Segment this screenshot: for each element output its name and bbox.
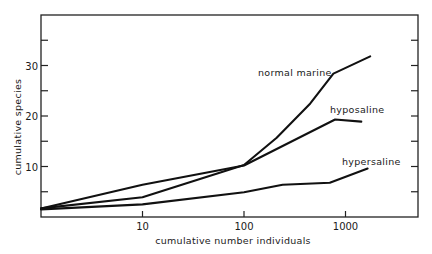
label-hyposaline: hyposaline bbox=[330, 104, 384, 115]
series-line-normal-marine bbox=[41, 56, 370, 208]
x-tick-label: 10 bbox=[136, 221, 149, 232]
axis-tick-labels: 101001000102030 bbox=[25, 61, 358, 233]
y-tick-label: 10 bbox=[25, 162, 38, 173]
x-tick-label: 1000 bbox=[333, 221, 358, 232]
data-series bbox=[41, 56, 370, 209]
axis-ticks bbox=[41, 40, 418, 217]
plot-frame bbox=[41, 15, 418, 217]
series-line-hyposaline bbox=[41, 120, 361, 209]
y-axis-title: cumulative species bbox=[12, 79, 23, 176]
y-tick-label: 20 bbox=[25, 111, 38, 122]
label-hypersaline: hypersaline bbox=[342, 156, 401, 167]
x-axis-title: cumulative number individuals bbox=[155, 235, 311, 246]
chart: 101001000102030 normal marine hyposaline… bbox=[0, 0, 432, 254]
x-tick-label: 100 bbox=[234, 221, 253, 232]
label-normal-marine: normal marine bbox=[258, 67, 332, 78]
y-tick-label: 30 bbox=[25, 61, 38, 72]
